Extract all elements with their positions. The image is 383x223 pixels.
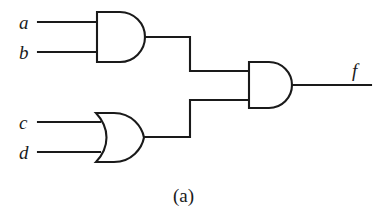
figure-caption: (a) xyxy=(173,186,194,205)
label-input-a: a xyxy=(19,13,29,32)
label-input-b: b xyxy=(19,43,29,62)
label-input-c: c xyxy=(19,113,27,132)
wire-or1-to-and2 xyxy=(144,100,249,137)
or-gate-1 xyxy=(96,113,144,162)
wire-and1-to-and2 xyxy=(145,37,249,71)
label-output-f: f xyxy=(352,61,357,80)
figure-container: a b c d f (a) xyxy=(0,0,383,223)
label-input-d: d xyxy=(19,143,29,162)
and-gate-2 xyxy=(249,62,292,108)
and-gate-1 xyxy=(97,12,145,62)
